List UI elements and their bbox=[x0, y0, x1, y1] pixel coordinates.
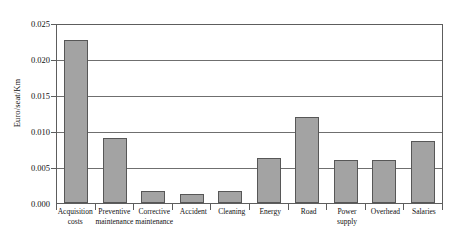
x-axis-label: Preventive maintenance bbox=[94, 207, 134, 241]
y-tick-label: 0.010 bbox=[0, 126, 56, 138]
x-axis-label: Cleaning bbox=[213, 207, 251, 241]
y-tick-label-text: 0.005 bbox=[31, 163, 56, 173]
y-tick-label: 0.000 bbox=[0, 198, 56, 210]
bars-layer bbox=[57, 25, 442, 203]
bar-slot bbox=[404, 25, 443, 203]
y-tick-label-text: 0.020 bbox=[31, 55, 56, 65]
bar-slot bbox=[327, 25, 366, 203]
bar-slot bbox=[365, 25, 404, 203]
x-axis-label: Accident bbox=[174, 207, 212, 241]
y-tick-label: 0.005 bbox=[0, 162, 56, 174]
y-tick-label-text: 0.025 bbox=[31, 19, 56, 29]
bar bbox=[372, 160, 396, 203]
y-tick-label-text: 0.000 bbox=[31, 199, 56, 209]
x-axis-label: Corrective maintenance bbox=[134, 207, 174, 241]
bar-slot bbox=[173, 25, 212, 203]
y-tick-label-text: 0.010 bbox=[31, 127, 56, 137]
x-axis-label: Power supply bbox=[328, 207, 366, 241]
x-axis-label: Acquisition costs bbox=[56, 207, 94, 241]
x-axis-label: Overhead bbox=[366, 207, 404, 241]
bar-slot bbox=[96, 25, 135, 203]
x-axis-label: Road bbox=[289, 207, 327, 241]
y-tick-label: 0.020 bbox=[0, 54, 56, 66]
bar bbox=[180, 194, 204, 203]
plot-area bbox=[56, 24, 443, 204]
bar bbox=[141, 191, 165, 203]
bar bbox=[411, 141, 435, 203]
bar-slot bbox=[134, 25, 173, 203]
bar bbox=[257, 158, 281, 203]
y-tick-label: 0.015 bbox=[0, 90, 56, 102]
bar-slot bbox=[288, 25, 327, 203]
y-axis-title-text: Euro/seat/Km bbox=[12, 78, 22, 126]
y-tick-label: 0.025 bbox=[0, 18, 56, 30]
bar-chart-figure: Euro/seat/Km 0.0000.0050.0100.0150.0200.… bbox=[0, 0, 458, 246]
bar bbox=[64, 40, 88, 203]
bar-slot bbox=[57, 25, 96, 203]
x-axis-label: Energy bbox=[251, 207, 289, 241]
y-tick-label-text: 0.015 bbox=[31, 91, 56, 101]
bar-slot bbox=[250, 25, 289, 203]
bar bbox=[295, 117, 319, 203]
bar bbox=[334, 160, 358, 203]
y-axis-title: Euro/seat/Km bbox=[6, 0, 28, 205]
bar-slot bbox=[211, 25, 250, 203]
x-axis-labels: Acquisition costsPreventive maintenanceC… bbox=[56, 207, 443, 241]
bar bbox=[103, 138, 127, 203]
bar bbox=[218, 191, 242, 203]
x-axis-label: Salaries bbox=[405, 207, 443, 241]
